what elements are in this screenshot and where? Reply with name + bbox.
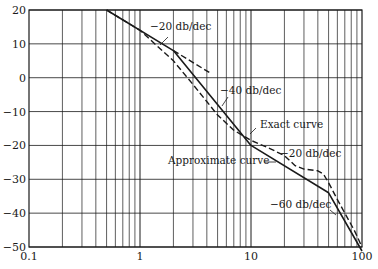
annotation-exact-curve: Exact curve [260,118,323,130]
x-tick-label: 1 [137,250,144,263]
x-tick-label: 100 [352,250,373,263]
annotation-minus60: −60 db/dec [270,198,331,210]
bode-magnitude-plot: 20100−10−20−30−40−50 0.1110100 −20 db/de… [0,0,378,269]
series--20-db-dec-asymptote-extension [173,51,211,74]
y-tick-label: 20 [12,4,26,17]
x-tick-label: 0.1 [20,250,38,263]
annotation-minus20-top: −20 db/dec [150,20,211,32]
series-approximate-curve [107,10,362,251]
y-axis-tick-labels: 20100−10−20−30−40−50 [3,4,26,254]
curves [107,10,362,251]
y-tick-label: −20 [3,139,26,152]
series-exact-curve [107,10,362,247]
annotation-minus20-mid: −20 db/dec [280,147,341,159]
x-tick-label: 10 [244,250,258,263]
y-tick-label: −10 [3,106,26,119]
y-tick-label: −40 [3,207,26,220]
annotation-approximate-curve: Approximate curve [167,154,269,166]
y-tick-label: 10 [12,38,26,51]
annotation-minus40: −40 db/dec [220,84,281,96]
y-tick-label: −30 [3,173,26,186]
y-tick-label: 0 [19,72,26,85]
x-axis-tick-labels: 0.1110100 [20,250,372,263]
